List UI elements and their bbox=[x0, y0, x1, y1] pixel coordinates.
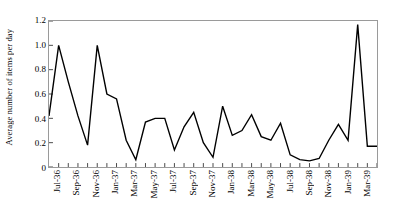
x-tick-label: Jul-37 bbox=[169, 170, 178, 193]
x-tick-label: Mar-38 bbox=[247, 170, 256, 197]
x-tick-label: Sep-38 bbox=[305, 170, 314, 196]
x-tick-label: Jan-38 bbox=[227, 170, 236, 194]
plot-svg bbox=[49, 21, 377, 167]
y-axis-title-text: Average number of items per day bbox=[4, 29, 14, 145]
x-tick-label: Nov-37 bbox=[208, 170, 217, 198]
data-line-series-1 bbox=[49, 25, 377, 161]
x-axis-tick-labels: Jul-36Sep-36Nov-36Jan-37Mar-37May-37Jul-… bbox=[48, 170, 378, 223]
x-tick-label: Jul-36 bbox=[53, 170, 62, 193]
y-tick-label: 0 bbox=[20, 164, 46, 173]
y-tick-label: 1.0 bbox=[20, 40, 46, 49]
plot-area bbox=[48, 20, 378, 168]
y-tick-label: 0.4 bbox=[20, 114, 46, 123]
x-tick-label: May-37 bbox=[150, 170, 159, 199]
x-tick-label: Sep-36 bbox=[72, 170, 81, 196]
x-tick-label: Mar-37 bbox=[130, 170, 139, 197]
x-tick-label: Mar-39 bbox=[363, 170, 372, 197]
x-tick-label: Sep-37 bbox=[189, 170, 198, 196]
x-axis-ticks bbox=[59, 163, 377, 167]
x-tick-label: Nov-38 bbox=[324, 170, 333, 198]
y-tick-label: 0.6 bbox=[20, 90, 46, 99]
y-tick-label: 0.2 bbox=[20, 139, 46, 148]
chart-figure: Average number of items per day 00.20.40… bbox=[0, 0, 409, 223]
y-tick-label: 1.2 bbox=[20, 16, 46, 25]
y-tick-label: 0.8 bbox=[20, 65, 46, 74]
x-tick-label: Nov-36 bbox=[92, 170, 101, 198]
y-axis-tick-labels: 00.20.40.60.81.01.2 bbox=[16, 0, 46, 223]
x-tick-label: Jan-37 bbox=[111, 170, 120, 194]
x-tick-label: Jan-39 bbox=[344, 170, 353, 194]
x-tick-label: May-38 bbox=[266, 170, 275, 199]
x-tick-label: Jul-38 bbox=[286, 170, 295, 193]
